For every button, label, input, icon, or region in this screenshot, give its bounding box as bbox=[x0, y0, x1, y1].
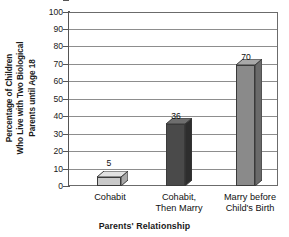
gridline-80 bbox=[69, 46, 277, 47]
y-axis-label-80: 80 bbox=[37, 42, 63, 51]
y-axis-label-90: 90 bbox=[37, 25, 63, 34]
bar-cohabit-front bbox=[97, 177, 121, 186]
bar-value-cohabit-then-marry: 36 bbox=[163, 112, 189, 121]
y-axis-label-60: 60 bbox=[37, 77, 63, 86]
y-axis-label-100: 100 bbox=[37, 8, 63, 17]
x-axis-category-cohabit-then-marry-line-1: Cohabit, bbox=[144, 192, 214, 203]
y-axis-title-line-2: Who Live with Two Biological bbox=[15, 41, 26, 154]
bar-marry-before-birth[interactable] bbox=[236, 65, 255, 186]
y-axis-label-40: 40 bbox=[37, 112, 63, 121]
bar-marry-before-birth-front bbox=[236, 65, 255, 186]
x-axis-category-marry-before-birth: Marry before Child's Birth bbox=[211, 192, 289, 214]
bar-cohabit[interactable] bbox=[97, 177, 121, 186]
x-axis-category-cohabit-line-1: Cohabit bbox=[75, 192, 145, 203]
y-axis-title: Percentage of Children Who Live with Two… bbox=[0, 0, 42, 196]
bar-value-marry-before-birth: 70 bbox=[233, 53, 259, 62]
y-axis-tick-80b bbox=[63, 0, 69, 1]
bar-chart: Percentage of Children Who Live with Two… bbox=[0, 0, 289, 237]
gridline-90 bbox=[69, 29, 277, 30]
y-axis-label-50: 50 bbox=[37, 95, 63, 104]
y-axis-title-line-1: Percentage of Children bbox=[4, 41, 15, 154]
bar-cohabit-then-marry-side bbox=[185, 118, 192, 186]
bar-cohabit-then-marry-front bbox=[166, 124, 185, 186]
x-axis-category-cohabit-then-marry: Cohabit, Then Marry bbox=[144, 192, 214, 214]
bar-marry-before-birth-side bbox=[255, 59, 262, 186]
y-axis-label-70: 70 bbox=[37, 60, 63, 69]
x-axis-title: Parents' Relationship bbox=[0, 221, 289, 231]
y-axis-label-0: 0 bbox=[37, 182, 63, 191]
bar-value-cohabit: 5 bbox=[96, 159, 122, 168]
y-axis-tick-0 bbox=[63, 186, 69, 187]
x-axis-category-cohabit: Cohabit bbox=[75, 192, 145, 203]
bar-cohabit-then-marry[interactable] bbox=[166, 124, 185, 186]
y-axis-label-30: 30 bbox=[37, 130, 63, 139]
y-axis-label-20: 20 bbox=[37, 147, 63, 156]
y-axis-label-10: 10 bbox=[37, 165, 63, 174]
x-axis-category-cohabit-then-marry-line-2: Then Marry bbox=[144, 203, 214, 214]
x-axis-category-marry-before-birth-line-2: Child's Birth bbox=[211, 203, 289, 214]
x-axis-category-marry-before-birth-line-1: Marry before bbox=[211, 192, 289, 203]
